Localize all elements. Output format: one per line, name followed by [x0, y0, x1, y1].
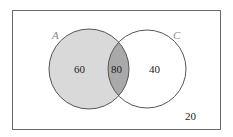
set-c-only-value: 40: [149, 64, 160, 75]
universe-outside-value: 20: [185, 111, 196, 122]
set-a-label: A: [52, 30, 59, 41]
set-a-only-value: 60: [74, 64, 85, 75]
set-c-label: C: [173, 30, 180, 41]
intersection-value: 80: [111, 64, 122, 75]
